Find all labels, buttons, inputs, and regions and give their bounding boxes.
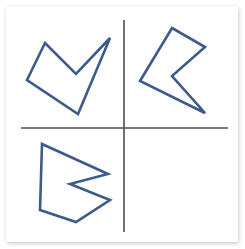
shape-top-left-v-arrow <box>27 38 110 114</box>
shape-top-right-left-chevron <box>140 28 205 113</box>
quadrant-diagram <box>0 0 245 249</box>
figure-canvas <box>0 0 245 249</box>
shape-bottom-left-right-chevron <box>40 144 110 222</box>
